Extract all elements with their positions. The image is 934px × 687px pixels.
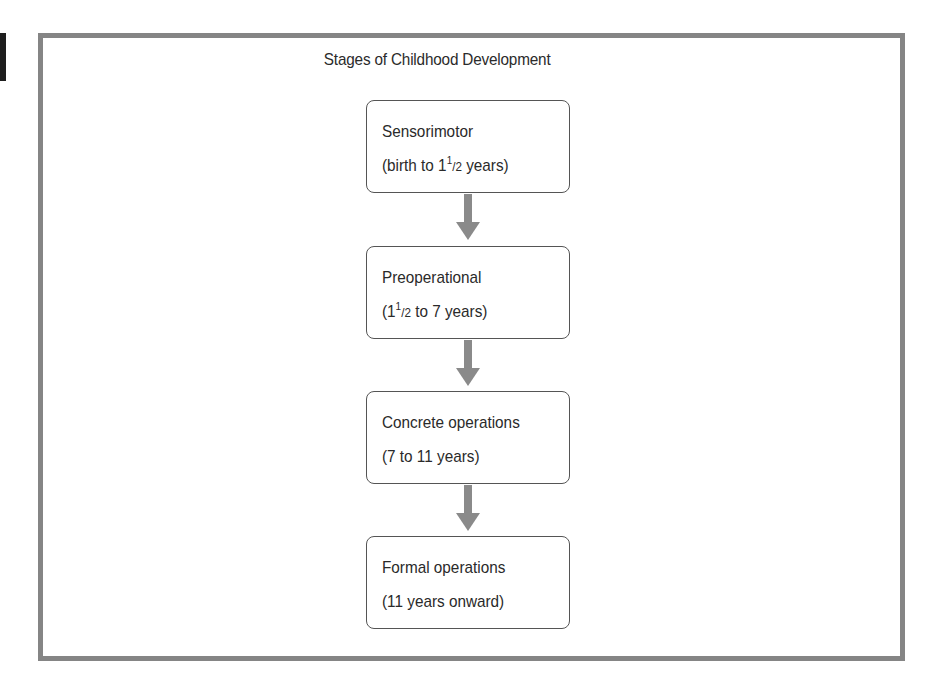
down-arrow-icon bbox=[455, 340, 481, 388]
stage-age: (11 years onward) bbox=[382, 585, 550, 619]
down-arrow-icon bbox=[455, 194, 481, 242]
down-arrow-icon bbox=[455, 485, 481, 533]
stage-age: (7 to 11 years) bbox=[382, 440, 550, 474]
stage-box-concrete-operations: Concrete operations (7 to 11 years) bbox=[366, 391, 570, 484]
stage-name: Preoperational bbox=[382, 261, 550, 295]
stage-age: (birth to 11/2 years) bbox=[382, 149, 550, 184]
stage-name: Formal operations bbox=[382, 551, 550, 585]
stage-name: Concrete operations bbox=[382, 406, 550, 440]
stage-age: (11/2 to 7 years) bbox=[382, 295, 550, 330]
diagram-title: Stages of Childhood Development bbox=[25, 50, 850, 70]
side-tab-marker bbox=[0, 33, 6, 81]
stage-box-sensorimotor: Sensorimotor (birth to 11/2 years) bbox=[366, 100, 570, 193]
stage-name: Sensorimotor bbox=[382, 115, 550, 149]
diagram-frame: Stages of Childhood Development Sensorim… bbox=[38, 33, 905, 661]
stage-box-formal-operations: Formal operations (11 years onward) bbox=[366, 536, 570, 629]
stage-box-preoperational: Preoperational (11/2 to 7 years) bbox=[366, 246, 570, 339]
